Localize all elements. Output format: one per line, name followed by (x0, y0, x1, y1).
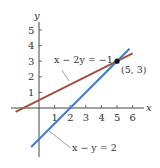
y-tick-label: 4 (28, 40, 34, 51)
intersection-point (114, 59, 119, 64)
x-tick-label: 5 (114, 112, 120, 123)
y-ticks: 1 2 3 4 5 (28, 25, 42, 98)
y-tick-label: 5 (28, 25, 34, 36)
intersection-point-label: (5, 3) (121, 64, 147, 75)
y-axis-label: y (33, 10, 40, 21)
x-tick-label: 2 (67, 112, 73, 123)
x-tick-label: 3 (83, 112, 89, 123)
eq2-leader-line (49, 131, 71, 148)
x-axis-label: x (146, 102, 152, 113)
y-tick-label: 2 (28, 71, 34, 82)
eq2-label: x − y = 2 (72, 142, 117, 153)
eq1-leader-line (62, 70, 69, 81)
eq1-label: x − 2y = −1 (54, 54, 113, 65)
line-intersection-chart: x y 1 2 3 4 5 6 1 2 3 4 5 x − 2y = −1 x … (0, 0, 160, 168)
x-tick-label: 4 (98, 112, 104, 123)
y-tick-label: 1 (28, 87, 34, 98)
y-tick-label: 3 (28, 56, 34, 67)
x-tick-label: 6 (130, 112, 136, 123)
